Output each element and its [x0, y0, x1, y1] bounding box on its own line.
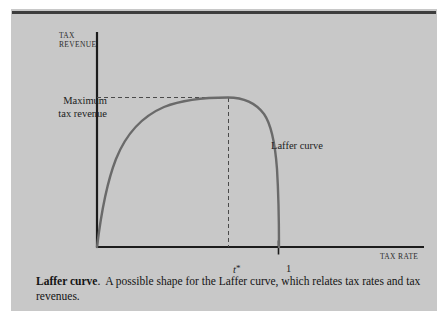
page-margin-left: [0, 0, 11, 317]
caption-title: Laffer curve: [36, 275, 97, 287]
x-tick-label-tstar-star: *: [236, 263, 241, 273]
page-margin-bottom: [0, 311, 447, 317]
max-revenue-label: Maximum tax revenue: [35, 95, 107, 120]
laffer-curve-path: [97, 98, 279, 248]
x-axis-title: TAX RATE: [380, 252, 418, 261]
x-tick-label-one: 1: [286, 263, 291, 274]
plot-svg: [12, 14, 436, 266]
figure-caption: Laffer curve.A possible shape for the La…: [36, 274, 422, 303]
plot-area: TAX REVENUE TAX RATE Maximum tax revenue…: [12, 14, 436, 266]
caption-period: .: [97, 275, 100, 287]
page-margin-top: [0, 0, 447, 9]
laffer-curve-callout-label: Laffer curve: [271, 140, 323, 151]
laffer-curve-figure: TAX REVENUE TAX RATE Maximum tax revenue…: [0, 0, 447, 317]
y-axis-title: TAX REVENUE: [59, 31, 96, 49]
page-margin-right: [437, 0, 447, 317]
